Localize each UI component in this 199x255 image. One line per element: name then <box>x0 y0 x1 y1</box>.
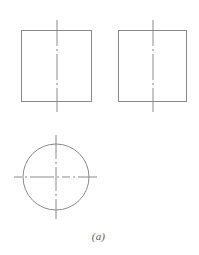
figure-caption-text: (a) <box>92 229 105 243</box>
figure-container: (a) <box>0 0 199 255</box>
engineering-drawing-canvas <box>0 0 199 255</box>
figure-caption: (a) <box>0 229 199 243</box>
drawing-background <box>0 0 199 255</box>
